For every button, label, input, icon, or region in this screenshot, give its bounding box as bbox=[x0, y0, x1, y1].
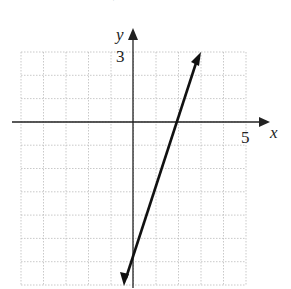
x-axis-arrow-icon bbox=[259, 117, 270, 127]
line-arrow-top-icon bbox=[191, 52, 201, 66]
x-tick-label: 5 bbox=[241, 128, 250, 147]
line-arrow-bottom-icon bbox=[120, 272, 129, 286]
coordinate-plane: m = 3, b = −6 x y 5 3 bbox=[0, 0, 291, 289]
x-axis-label: x bbox=[269, 123, 278, 142]
svg-text:m = 3, b = −6: m = 3, b = −6 bbox=[75, 0, 163, 1]
y-axis-arrow-icon bbox=[128, 28, 138, 40]
partial-header-text: m = 3, b = −6 bbox=[75, 0, 163, 1]
y-tick-label: 3 bbox=[116, 47, 125, 66]
plotted-line bbox=[126, 60, 197, 278]
y-axis-label: y bbox=[114, 25, 124, 44]
